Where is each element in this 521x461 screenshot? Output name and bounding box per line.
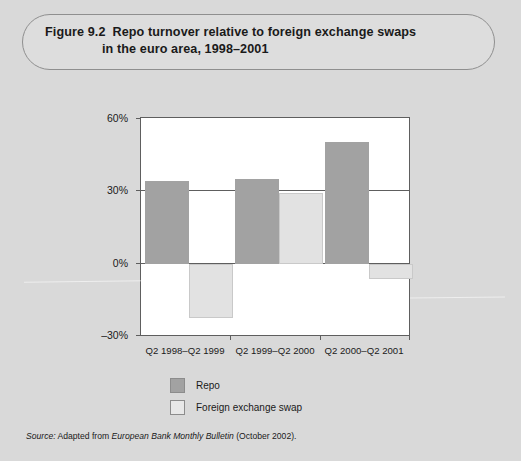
- plot-frame: 60% 30% 0% ‒30%: [140, 117, 410, 336]
- bar-repo-3: [325, 142, 369, 264]
- x-tick-2: [320, 335, 321, 340]
- legend-swatch-fx-swap-icon: [170, 400, 185, 415]
- figure-title-box: Figure 9.2Repo turnover relative to fore…: [22, 14, 495, 70]
- y-axis-label-minus-30: ‒30%: [101, 329, 128, 341]
- legend-swatch-repo-icon: [170, 378, 185, 393]
- bar-foreign-exchange-swap-1: [189, 264, 233, 318]
- chart-area: 60% 30% 0% ‒30% Q2 1998–Q2 1999 Q2 1999–…: [22, 74, 499, 448]
- y-tick-minus30: ‒30%: [136, 335, 141, 336]
- bar-repo-2: [235, 179, 279, 264]
- figure-title-line-1: Repo turnover relative to foreign exchan…: [113, 25, 417, 39]
- x-category-1: Q2 1998–Q2 1999: [146, 345, 225, 356]
- source-note: Source: Adapted from European Bank Month…: [26, 431, 296, 441]
- y-tick-30: 30%: [136, 190, 141, 191]
- x-category-2: Q2 1999–Q2 2000: [236, 345, 315, 356]
- x-category-3: Q2 2000–Q2 2001: [325, 345, 404, 356]
- figure-number: Figure 9.2: [45, 24, 106, 41]
- source-suffix: (October 2002).: [234, 431, 297, 441]
- figure-card: Figure 9.2Repo turnover relative to fore…: [22, 14, 499, 448]
- figure-title-line-2: in the euro area, 1998–2001: [45, 41, 475, 58]
- legend-label-repo: Repo: [196, 380, 220, 391]
- legend-label-fx-swap: Foreign exchange swap: [196, 402, 302, 413]
- x-tick-1: [230, 335, 231, 340]
- source-prefix: Adapted from: [56, 431, 112, 441]
- source-publication: European Bank Monthly Bulletin: [112, 431, 234, 441]
- legend-item-fx-swap: Foreign exchange swap: [170, 396, 302, 418]
- bar-foreign-exchange-swap-2: [279, 193, 323, 264]
- y-tick-0: 0%: [136, 263, 141, 264]
- legend-item-repo: Repo: [170, 374, 302, 396]
- y-axis-label-0: 0%: [113, 257, 128, 269]
- y-axis-label-60: 60%: [107, 112, 128, 124]
- y-tick-60: 60%: [136, 118, 141, 119]
- page-title: Figure 9.2Repo turnover relative to fore…: [45, 24, 475, 58]
- bar-repo-1: [145, 181, 189, 264]
- chart-legend: Repo Foreign exchange swap: [170, 374, 302, 418]
- source-label: Source:: [26, 431, 56, 441]
- y-axis-label-30: 30%: [107, 184, 128, 196]
- x-tick-3: [409, 335, 410, 340]
- bar-foreign-exchange-swap-3: [369, 264, 413, 279]
- x-axis-labels: Q2 1998–Q2 1999 Q2 1999–Q2 2000 Q2 2000–…: [140, 345, 410, 361]
